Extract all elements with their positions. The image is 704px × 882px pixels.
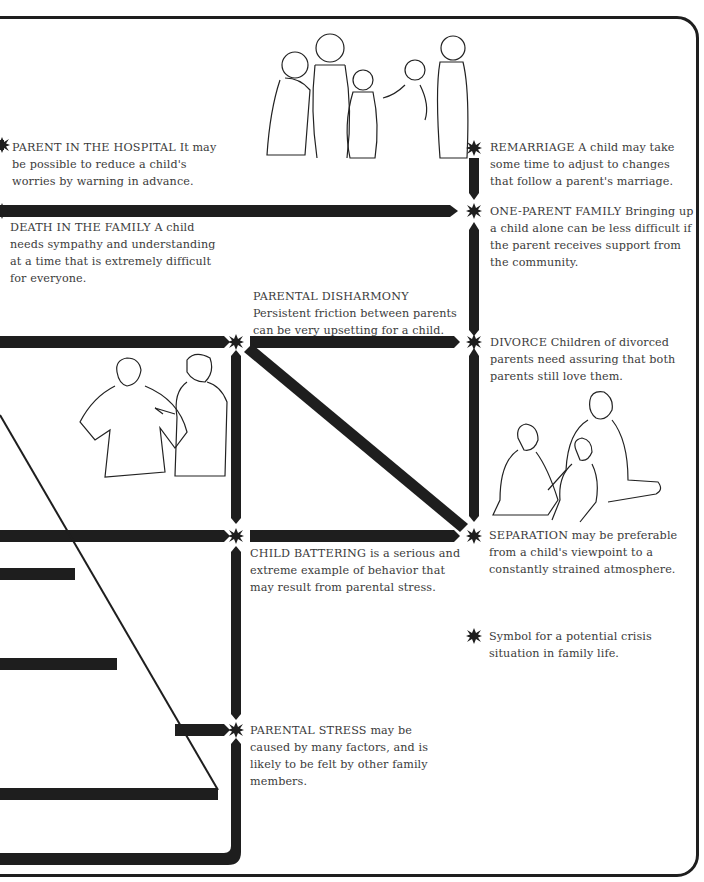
arguing-parents-illustration [75, 352, 230, 484]
crisis-star-icon-legend [466, 628, 482, 644]
flow-line-death-to-one-parent [0, 205, 458, 217]
crisis-star-icon-one-parent [466, 203, 482, 219]
node-divorce: DIVORCE Children of divorced parents nee… [490, 334, 695, 385]
family-group-illustration [255, 30, 470, 165]
crisis-star-icon-divorce [466, 334, 482, 350]
crisis-star-icon-battering [228, 528, 244, 544]
node-one-parent-family: ONE-PARENT FAMILY Bringing up a child al… [490, 203, 700, 271]
node-parental-disharmony: PARENTAL DISHARMONY Persistent friction … [253, 288, 465, 339]
legend-text: Symbol for a potential crisis situation … [489, 628, 679, 662]
node-parent-in-hospital: PARENT IN THE HOSPITAL It may be possibl… [12, 139, 227, 190]
node-parental-stress: PARENTAL STRESS may be caused by many fa… [250, 722, 455, 790]
node-separation: SEPARATION may be preferable from a chil… [489, 527, 699, 578]
crisis-star-icon-separation [466, 528, 482, 544]
node-child-battering: CHILD BATTERING is a serious and extreme… [250, 545, 462, 596]
crisis-star-icon-stress [228, 722, 244, 738]
crisis-star-icon-disharmony [228, 334, 244, 350]
mother-children-illustration [488, 390, 668, 530]
crisis-star-icon-hospital [0, 137, 10, 153]
node-death-in-family: DEATH IN THE FAMILY A child needs sympat… [10, 219, 225, 287]
node-remarriage: REMARRIAGE A child may take some time to… [490, 139, 690, 190]
